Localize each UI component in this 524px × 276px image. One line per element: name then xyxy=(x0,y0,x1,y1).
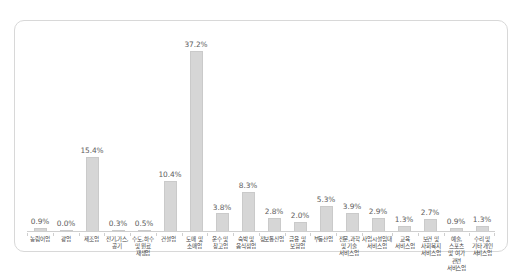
category-label: 정보통신업 xyxy=(259,233,285,243)
bar-value-label: 1.3% xyxy=(473,216,491,223)
category-label-line: 부동산업 xyxy=(311,236,336,243)
bar-value-label: 0.3% xyxy=(109,220,127,227)
category-label-line: 정보통신업 xyxy=(259,236,284,243)
category-label: 수도,하수및 원료재생업 xyxy=(130,233,156,258)
bar-series: 0.9%0.0%15.4%0.3%0.5%10.4%37.2%3.8%8.3%2… xyxy=(27,25,495,232)
category-label-line: 서비스업 xyxy=(470,250,495,257)
category-label: 건설업 xyxy=(156,233,182,243)
bar-value-label: 0.0% xyxy=(57,220,75,227)
category-label-line: 서비스업 xyxy=(393,243,418,250)
category-label-line: 도매 및 xyxy=(182,236,207,243)
category-label-line: 전문,과학 xyxy=(337,236,362,243)
bar[interactable] xyxy=(268,218,281,232)
category-label-line: 전기,가스, xyxy=(105,236,130,243)
bar-value-label: 2.7% xyxy=(421,209,439,216)
bar-value-label: 0.9% xyxy=(447,218,465,225)
category-label-line: 및 여가 관련 xyxy=(444,250,469,265)
plot-area: 0.9%0.0%15.4%0.3%0.5%10.4%37.2%3.8%8.3%2… xyxy=(21,25,501,247)
bar-value-label: 15.4% xyxy=(81,147,104,154)
category-label-line: 금융 및 xyxy=(285,236,310,243)
category-label: 부동산업 xyxy=(310,233,336,243)
bar[interactable] xyxy=(320,206,333,232)
category-label-line: 운수 및 xyxy=(208,236,233,243)
category-label-line: 수리 및 xyxy=(470,236,495,243)
category-label: 전문,과학및 기술서비스업 xyxy=(336,233,362,258)
bar-column[interactable]: 0.9% xyxy=(443,25,469,232)
bar-column[interactable]: 1.3% xyxy=(391,25,417,232)
bar-column[interactable]: 2.7% xyxy=(417,25,443,232)
chart-card: 0.9%0.0%15.4%0.3%0.5%10.4%37.2%3.8%8.3%2… xyxy=(14,20,508,252)
category-label-line: 서비스업 xyxy=(418,250,443,257)
bar-column[interactable]: 3.8% xyxy=(209,25,235,232)
category-label: 수리 및기타 개인서비스업 xyxy=(469,233,495,258)
category-label-line: 광업 xyxy=(53,236,78,243)
category-label-line: 제조업 xyxy=(79,236,104,243)
bar[interactable] xyxy=(242,192,255,232)
bar[interactable] xyxy=(346,213,359,232)
bar-value-label: 0.9% xyxy=(31,218,49,225)
bar-column[interactable]: 0.9% xyxy=(27,25,53,232)
bar-column[interactable]: 1.3% xyxy=(469,25,495,232)
category-label-line: 재생업 xyxy=(131,250,156,257)
bar[interactable] xyxy=(164,181,177,232)
category-label-line: 창고업 xyxy=(208,243,233,250)
bar-value-label: 5.3% xyxy=(317,196,335,203)
category-label: 교육서비스업 xyxy=(392,233,418,250)
category-label: 전기,가스,공기 xyxy=(104,233,130,250)
bar-column[interactable]: 3.9% xyxy=(339,25,365,232)
bar-value-label: 2.8% xyxy=(265,208,283,215)
category-label: 제조업 xyxy=(79,233,105,243)
category-label-line: 서비스업 xyxy=(337,250,362,257)
bar-column[interactable]: 0.3% xyxy=(105,25,131,232)
category-label-line: 음식점업 xyxy=(234,243,259,250)
bar-column[interactable]: 2.9% xyxy=(365,25,391,232)
category-label-line: 보험업 xyxy=(285,243,310,250)
category-label: 보건 및사회복지서비스업 xyxy=(418,233,444,258)
bar-column[interactable]: 2.8% xyxy=(261,25,287,232)
category-label-line: 보건 및 xyxy=(418,236,443,243)
bar-column[interactable]: 15.4% xyxy=(79,25,105,232)
bar-value-label: 2.0% xyxy=(291,212,309,219)
bar[interactable] xyxy=(86,157,99,232)
bar[interactable] xyxy=(216,213,229,232)
category-label: 사업시설임대서비스업 xyxy=(362,233,392,250)
bar[interactable] xyxy=(372,218,385,232)
bar-column[interactable]: 37.2% xyxy=(183,25,209,232)
category-label: 도매 및소매업 xyxy=(182,233,208,250)
category-label-line: 수도,하수 xyxy=(131,236,156,243)
bar-value-label: 2.9% xyxy=(369,208,387,215)
category-label-line: 건설업 xyxy=(156,236,181,243)
bar-value-label: 10.4% xyxy=(159,171,182,178)
bar-column[interactable]: 2.0% xyxy=(287,25,313,232)
category-label-line: 교육 xyxy=(393,236,418,243)
bar-column[interactable]: 10.4% xyxy=(157,25,183,232)
category-label-line: 서비스업 xyxy=(444,265,469,272)
category-label-line: 농림어업 xyxy=(28,236,53,243)
x-axis-baseline xyxy=(27,231,495,232)
bar-column[interactable]: 0.0% xyxy=(53,25,79,232)
category-label: 예술,스포츠및 여가 관련서비스업 xyxy=(444,233,470,272)
category-label: 농림어업 xyxy=(27,233,53,243)
bar-column[interactable]: 5.3% xyxy=(313,25,339,232)
category-label: 금융 및보험업 xyxy=(285,233,311,250)
category-label-line: 사업시설임대 xyxy=(362,236,391,243)
category-label-line: 소매업 xyxy=(182,243,207,250)
bar-value-label: 1.3% xyxy=(395,216,413,223)
bar-column[interactable]: 0.5% xyxy=(131,25,157,232)
bar-value-label: 3.9% xyxy=(343,203,361,210)
category-label-line: 숙박 및 xyxy=(234,236,259,243)
bar-value-label: 37.2% xyxy=(185,41,208,48)
category-label: 숙박 및음식점업 xyxy=(233,233,259,250)
category-label: 광업 xyxy=(53,233,79,243)
category-label-line: 예술,스포츠 xyxy=(444,236,469,251)
category-label-line: 공기 xyxy=(105,243,130,250)
bar[interactable] xyxy=(190,51,203,232)
x-axis-category-labels: 농림어업광업제조업전기,가스,공기수도,하수및 원료재생업건설업도매 및소매업운… xyxy=(27,233,495,276)
bar-column[interactable]: 8.3% xyxy=(235,25,261,232)
bar-value-label: 8.3% xyxy=(239,182,257,189)
bar-value-label: 3.8% xyxy=(213,204,231,211)
category-label: 운수 및창고업 xyxy=(207,233,233,250)
bar-value-label: 0.5% xyxy=(135,220,153,227)
category-label-line: 서비스업 xyxy=(362,243,391,250)
